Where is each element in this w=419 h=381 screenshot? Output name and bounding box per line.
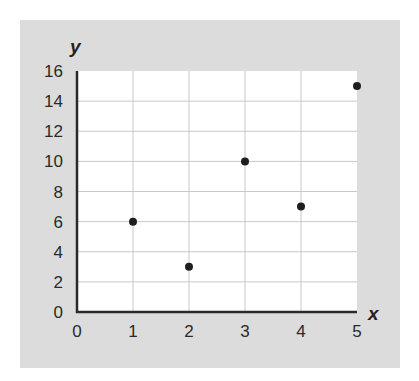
data-point — [185, 263, 193, 271]
y-tick-label: 10 — [44, 152, 63, 171]
x-tick-label: 3 — [240, 322, 249, 341]
data-point — [353, 82, 361, 90]
y-tick-label: 2 — [54, 273, 63, 292]
data-point — [241, 157, 249, 165]
x-axis-ticks: 012345 — [72, 322, 361, 341]
y-axis-ticks: 0246810121416 — [44, 62, 63, 322]
data-point — [129, 218, 137, 226]
y-tick-label: 16 — [44, 62, 63, 81]
y-tick-label: 14 — [44, 92, 63, 111]
y-axis-label: y — [69, 36, 82, 57]
x-tick-label: 0 — [72, 322, 81, 341]
x-tick-label: 2 — [184, 322, 193, 341]
y-tick-label: 0 — [54, 303, 63, 322]
scatter-chart: 012345 0246810121416 x y — [0, 0, 419, 381]
data-point — [297, 203, 305, 211]
x-tick-label: 1 — [128, 322, 137, 341]
y-tick-label: 8 — [54, 183, 63, 202]
y-tick-label: 6 — [54, 213, 63, 232]
x-tick-label: 4 — [296, 322, 305, 341]
y-tick-label: 12 — [44, 122, 63, 141]
x-tick-label: 5 — [352, 322, 361, 341]
x-axis-label: x — [367, 303, 380, 324]
y-tick-label: 4 — [54, 243, 63, 262]
